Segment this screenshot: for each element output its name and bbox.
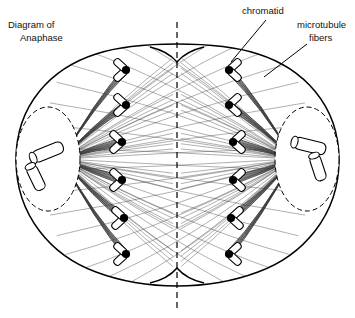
diagram-canvas: Diagram of Anaphase chromatid microtubul… (0, 0, 355, 318)
label-chromatid: chromatid (242, 5, 284, 16)
chromatid (225, 241, 243, 266)
chromatid (112, 241, 130, 266)
label-microtubule-line-2: fibers (309, 32, 332, 43)
centromere (227, 214, 235, 222)
centromere (122, 66, 130, 74)
centromere (225, 250, 233, 258)
centromere (118, 176, 126, 184)
chromatid (227, 205, 245, 230)
chromatid (225, 57, 243, 82)
title-line-2: Anaphase (20, 32, 63, 43)
centromere (225, 101, 233, 109)
title-line-1: Diagram of (8, 19, 55, 30)
centromere (225, 66, 233, 74)
centromere (118, 138, 126, 146)
microtubule-fibers-left (62, 22, 312, 296)
centromere (120, 214, 128, 222)
centromere (122, 250, 130, 258)
chromatid (112, 57, 130, 82)
anaphase-diagram: Diagram of Anaphase chromatid microtubul… (0, 0, 355, 318)
leader-line-microtubule-fibers (264, 44, 307, 77)
leader-line-chromatid (231, 20, 266, 62)
label-microtubule-line-1: microtubule (297, 19, 346, 30)
centromere (122, 101, 130, 109)
chromatid (110, 205, 128, 230)
microtubule-fibers-right (43, 22, 293, 296)
centrosome-right (275, 107, 339, 211)
centromere (229, 138, 237, 146)
chromatid (112, 92, 130, 117)
centromere (229, 176, 237, 184)
